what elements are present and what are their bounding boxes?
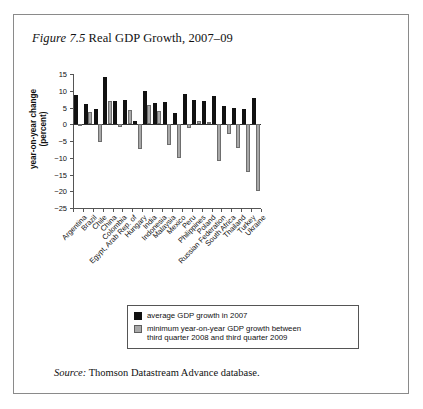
x-tick-mark	[221, 209, 222, 212]
bar-black	[163, 102, 167, 124]
x-tick-mark	[162, 209, 163, 212]
y-tick-label: 10	[43, 87, 67, 96]
y-tick-mark	[70, 175, 73, 176]
bar-gray	[118, 124, 122, 127]
source-note: Source: Thomson Datastream Advance datab…	[54, 367, 260, 378]
legend-label-series1: average GDP growth in 2007	[147, 311, 247, 321]
y-tick-mark	[70, 141, 73, 142]
bar-black	[222, 106, 226, 124]
bar-black	[74, 95, 78, 124]
bar-black	[242, 109, 246, 125]
source-label: Source:	[54, 367, 86, 378]
y-tick-label: −10	[43, 154, 67, 163]
y-tick-label: −5	[43, 137, 67, 146]
chart-legend: average GDP growth in 2007 minimum year-…	[127, 305, 359, 349]
x-tick-mark	[83, 209, 84, 212]
bar-gray	[108, 101, 112, 124]
bar-black	[252, 98, 256, 124]
source-text: Thomson Datastream Advance database.	[89, 367, 260, 378]
bar-black	[183, 94, 187, 124]
x-tick-mark	[122, 209, 123, 212]
x-tick-mark	[103, 209, 104, 212]
y-tick-label: −15	[43, 171, 67, 180]
bar-black	[133, 121, 137, 124]
bar-gray	[187, 124, 191, 128]
legend-swatch-gray-icon	[134, 325, 142, 333]
x-tick-mark	[231, 209, 232, 212]
bar-black	[202, 101, 206, 124]
y-tick-mark	[70, 124, 73, 125]
x-tick-mark	[261, 209, 262, 212]
bar-gray	[197, 121, 201, 124]
bar-gray	[128, 110, 132, 124]
bar-gray	[217, 124, 221, 161]
bar-black	[103, 77, 107, 125]
bar-black	[123, 100, 127, 124]
bar-gray	[207, 122, 211, 125]
bar-black	[212, 96, 216, 124]
bar-black	[94, 109, 98, 124]
bar-gray	[138, 124, 142, 148]
x-tick-mark	[251, 209, 252, 212]
bar-gray	[88, 112, 92, 125]
x-tick-mark	[113, 209, 114, 212]
legend-label-series2-line2: third quarter 2008 and third quarter 200…	[147, 333, 287, 342]
bar-black	[113, 101, 117, 124]
bar-gray	[78, 124, 82, 126]
bar-gray	[98, 124, 102, 142]
y-tick-mark	[70, 158, 73, 159]
bar-gray	[147, 105, 151, 124]
legend-label-series2-line1: minimum year-on-year GDP growth between	[147, 324, 301, 333]
y-tick-mark	[70, 108, 73, 109]
bar-black	[173, 113, 177, 124]
x-tick-mark	[182, 209, 183, 212]
y-axis-title-line1: year-on-year change	[29, 89, 38, 169]
y-axis-line	[73, 74, 74, 208]
legend-label-series2: minimum year-on-year GDP growth between …	[147, 324, 301, 343]
x-tick-mark	[93, 209, 94, 212]
y-tick-mark	[70, 91, 73, 92]
bar-gray	[177, 124, 181, 158]
figure-frame: Figure 7.5 Real GDP Growth, 2007–09 year…	[13, 14, 409, 394]
x-tick-mark	[132, 209, 133, 212]
bar-black	[84, 104, 88, 124]
bar-black	[232, 108, 236, 124]
x-axis-line	[73, 208, 261, 209]
bar-gray	[157, 111, 161, 124]
legend-item-series1: average GDP growth in 2007	[134, 311, 352, 321]
x-tick-mark	[142, 209, 143, 212]
y-tick-mark	[70, 191, 73, 192]
bar-black	[192, 100, 196, 124]
bar-gray	[227, 124, 231, 133]
x-tick-mark	[73, 209, 74, 212]
legend-swatch-black-icon	[134, 312, 142, 320]
y-tick-mark	[70, 74, 73, 75]
x-tick-mark	[202, 209, 203, 212]
y-tick-label: 15	[43, 70, 67, 79]
bar-gray	[256, 124, 260, 191]
bar-gray	[167, 124, 171, 145]
bar-gray	[246, 124, 250, 172]
x-tick-mark	[192, 209, 193, 212]
x-tick-mark	[212, 209, 213, 212]
y-tick-label: 5	[43, 104, 67, 113]
y-tick-label: 0	[43, 120, 67, 129]
bar-black	[153, 103, 157, 124]
x-tick-mark	[152, 209, 153, 212]
x-tick-mark	[172, 209, 173, 212]
y-tick-label: −25	[43, 204, 67, 213]
bar-black	[143, 91, 147, 124]
x-tick-mark	[241, 209, 242, 212]
bar-gray	[236, 124, 240, 148]
legend-item-series2: minimum year-on-year GDP growth between …	[134, 324, 352, 343]
y-tick-label: −20	[43, 187, 67, 196]
